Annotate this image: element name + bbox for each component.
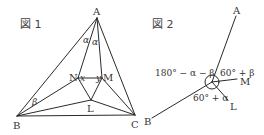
segment-AM <box>97 18 102 78</box>
figure-2-title: 図 2 <box>152 18 174 31</box>
figure-2: 図 2 A M L B 180° − α − β 60° + β 60° + α <box>144 5 254 127</box>
angle-label-x: x <box>80 73 85 83</box>
point-label-C: C <box>131 119 139 130</box>
point-label-L: L <box>230 101 237 112</box>
figure-1: 図 1 A B C N M L α α x y β <box>13 6 139 131</box>
segment-BN <box>17 78 78 116</box>
point-label-M: M <box>103 72 113 83</box>
segment-BC <box>17 115 135 116</box>
point-label-N: N <box>69 72 78 83</box>
ray-M <box>212 79 237 82</box>
angle-label-left: 180° − α − β <box>155 68 214 78</box>
angle-label-alpha-right: α <box>92 37 98 47</box>
angle-label-y: y <box>95 73 102 83</box>
point-label-L: L <box>87 103 94 114</box>
segment-AC <box>97 18 135 115</box>
figure-1-title: 図 1 <box>20 18 42 31</box>
point-label-B: B <box>13 120 20 131</box>
geometry-figures: 図 1 A B C N M L α α x y β 図 2 <box>0 0 264 135</box>
angle-label-upper-right: 60° + β <box>220 68 254 78</box>
angle-label-lower: 60° + α <box>193 93 228 103</box>
point-label-A: A <box>92 6 101 17</box>
point-label-A: A <box>232 5 241 16</box>
angle-label-beta: β <box>31 97 37 107</box>
point-label-B: B <box>144 116 151 127</box>
segment-AN <box>78 18 97 78</box>
angle-label-alpha-left: α <box>83 35 89 45</box>
